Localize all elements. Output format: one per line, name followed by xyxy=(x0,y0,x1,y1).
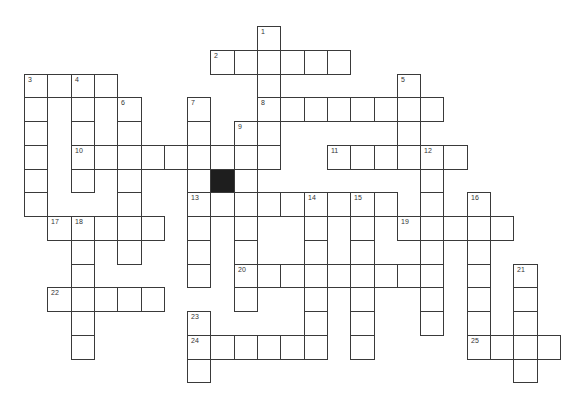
crossword-cell[interactable]: 18 xyxy=(71,216,95,241)
crossword-cell[interactable] xyxy=(257,74,281,98)
crossword-cell[interactable] xyxy=(187,121,211,146)
crossword-cell[interactable] xyxy=(420,287,444,312)
crossword-cell[interactable]: 22 xyxy=(47,287,72,312)
crossword-cell[interactable] xyxy=(490,335,514,360)
crossword-cell[interactable] xyxy=(234,216,258,241)
crossword-cell[interactable] xyxy=(94,145,118,170)
crossword-cell[interactable] xyxy=(234,287,258,312)
crossword-cell[interactable]: 4 xyxy=(71,74,95,98)
crossword-cell[interactable] xyxy=(374,97,398,122)
crossword-cell[interactable] xyxy=(257,335,281,360)
crossword-cell[interactable] xyxy=(71,97,95,122)
crossword-cell[interactable]: 6 xyxy=(117,97,142,122)
crossword-cell[interactable] xyxy=(374,264,398,288)
crossword-cell[interactable] xyxy=(304,311,328,336)
crossword-cell[interactable]: 24 xyxy=(187,335,211,360)
crossword-cell[interactable] xyxy=(397,97,421,122)
crossword-cell[interactable] xyxy=(234,240,258,265)
crossword-cell[interactable] xyxy=(234,169,258,193)
crossword-cell[interactable] xyxy=(210,145,235,170)
crossword-cell[interactable] xyxy=(490,216,514,241)
crossword-cell[interactable] xyxy=(141,145,165,170)
crossword-cell[interactable] xyxy=(24,192,48,217)
crossword-cell[interactable] xyxy=(350,216,375,241)
crossword-cell[interactable] xyxy=(141,287,165,312)
crossword-cell[interactable] xyxy=(187,240,211,265)
crossword-cell[interactable] xyxy=(443,145,468,170)
crossword-cell[interactable] xyxy=(24,121,48,146)
crossword-cell[interactable] xyxy=(257,192,281,217)
crossword-cell[interactable]: 15 xyxy=(350,192,375,217)
crossword-cell[interactable] xyxy=(327,50,351,75)
crossword-cell[interactable] xyxy=(187,216,211,241)
crossword-cell[interactable] xyxy=(280,264,305,288)
crossword-cell[interactable] xyxy=(117,145,142,170)
crossword-cell[interactable] xyxy=(467,240,491,265)
crossword-cell[interactable] xyxy=(234,192,258,217)
crossword-cell[interactable] xyxy=(94,74,118,98)
crossword-cell[interactable] xyxy=(513,335,538,360)
crossword-cell[interactable]: 5 xyxy=(397,74,421,98)
crossword-cell[interactable] xyxy=(187,359,211,383)
crossword-cell[interactable] xyxy=(420,311,444,336)
crossword-cell[interactable] xyxy=(71,335,95,360)
crossword-cell[interactable] xyxy=(467,311,491,336)
crossword-cell[interactable] xyxy=(467,287,491,312)
crossword-cell[interactable] xyxy=(210,192,235,217)
crossword-cell[interactable] xyxy=(117,192,142,217)
crossword-cell[interactable] xyxy=(420,240,444,265)
crossword-cell[interactable] xyxy=(141,216,165,241)
crossword-cell[interactable] xyxy=(71,169,95,193)
crossword-cell[interactable] xyxy=(374,145,398,170)
crossword-cell[interactable] xyxy=(257,50,281,75)
crossword-cell[interactable] xyxy=(187,145,211,170)
crossword-cell[interactable] xyxy=(420,192,444,217)
crossword-cell[interactable] xyxy=(234,50,258,75)
crossword-cell[interactable] xyxy=(350,240,375,265)
crossword-cell[interactable]: 20 xyxy=(234,264,258,288)
crossword-cell[interactable] xyxy=(513,287,538,312)
crossword-cell[interactable] xyxy=(397,145,421,170)
crossword-cell[interactable] xyxy=(24,97,48,122)
crossword-cell[interactable] xyxy=(117,240,142,265)
crossword-cell[interactable] xyxy=(71,287,95,312)
crossword-cell[interactable] xyxy=(467,216,491,241)
crossword-cell[interactable]: 13 xyxy=(187,192,211,217)
crossword-cell[interactable] xyxy=(210,335,235,360)
crossword-cell[interactable]: 10 xyxy=(71,145,95,170)
crossword-cell[interactable] xyxy=(24,169,48,193)
crossword-cell[interactable] xyxy=(350,335,375,360)
crossword-cell[interactable]: 17 xyxy=(47,216,72,241)
crossword-cell[interactable] xyxy=(327,97,351,122)
crossword-cell[interactable]: 14 xyxy=(304,192,328,217)
crossword-cell[interactable] xyxy=(164,145,188,170)
crossword-cell[interactable]: 2 xyxy=(210,50,235,75)
crossword-cell[interactable] xyxy=(350,311,375,336)
crossword-cell[interactable] xyxy=(117,121,142,146)
crossword-cell[interactable]: 12 xyxy=(420,145,444,170)
crossword-cell[interactable] xyxy=(280,50,305,75)
crossword-cell[interactable] xyxy=(304,335,328,360)
crossword-cell[interactable]: 16 xyxy=(467,192,491,217)
crossword-cell[interactable] xyxy=(513,359,538,383)
crossword-cell[interactable] xyxy=(187,169,211,193)
crossword-cell[interactable] xyxy=(374,192,398,217)
crossword-cell[interactable] xyxy=(71,311,95,336)
crossword-cell[interactable] xyxy=(304,50,328,75)
crossword-cell[interactable] xyxy=(234,145,258,170)
crossword-cell[interactable] xyxy=(280,97,305,122)
crossword-cell[interactable] xyxy=(327,264,351,288)
crossword-cell[interactable] xyxy=(304,287,328,312)
crossword-cell[interactable] xyxy=(280,192,305,217)
crossword-cell[interactable] xyxy=(397,264,421,288)
crossword-cell[interactable]: 11 xyxy=(327,145,351,170)
crossword-cell[interactable] xyxy=(350,97,375,122)
crossword-cell[interactable]: 8 xyxy=(257,97,281,122)
crossword-cell[interactable] xyxy=(257,264,281,288)
crossword-cell[interactable] xyxy=(350,264,375,288)
crossword-cell[interactable]: 1 xyxy=(257,26,281,51)
crossword-cell[interactable] xyxy=(420,264,444,288)
crossword-cell[interactable] xyxy=(94,287,118,312)
crossword-cell[interactable] xyxy=(47,74,72,98)
crossword-cell[interactable] xyxy=(71,121,95,146)
